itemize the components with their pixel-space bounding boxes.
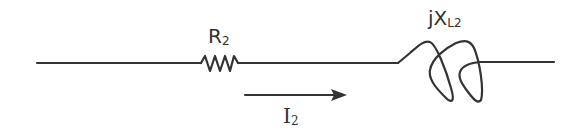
current-label: I2 (283, 104, 299, 128)
inductor-xl2-symbol (398, 41, 554, 101)
inductor-label: jXL2 (428, 6, 462, 30)
resistor-label: R2 (208, 24, 230, 48)
resistor-r2-symbol (201, 56, 238, 71)
